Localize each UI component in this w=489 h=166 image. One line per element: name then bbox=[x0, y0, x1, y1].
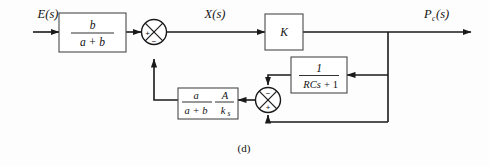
output-signal-label: P c (s) bbox=[423, 7, 449, 23]
wire-tap-to-bottomsummer-plus bbox=[268, 115, 388, 122]
bottom-summer-top-sign: − bbox=[266, 89, 271, 98]
input-signal-label: E(s) bbox=[37, 7, 59, 21]
feedback-gain-den-left: a + b bbox=[185, 105, 208, 116]
wire-feedbackgain-to-topsummer bbox=[154, 59, 178, 100]
wire-lagfilter-to-bottomsummer-minus bbox=[268, 75, 291, 85]
lag-filter-numerator: 1 bbox=[316, 62, 322, 74]
block-lag-filter[interactable]: 1 RCs + 1 bbox=[291, 57, 347, 93]
lag-filter-denominator-a: RCs bbox=[302, 79, 321, 90]
output-signal-main: P bbox=[423, 7, 432, 21]
lag-filter-denominator-b: + 1 bbox=[324, 79, 338, 90]
feedback-gain-num-right: A bbox=[221, 90, 229, 101]
feedback-gain-den-right: k bbox=[221, 105, 226, 116]
input-gain-numerator: b bbox=[90, 19, 96, 31]
block-diagram-figure: b a + b + − K 1 RCs + 1 bbox=[0, 0, 489, 166]
feedback-gain-num-left: a bbox=[193, 90, 198, 101]
block-feedback-gain[interactable]: a a + b A k s bbox=[178, 88, 238, 119]
top-summer-left-sign: + bbox=[145, 29, 150, 38]
feedback-gain-den-right-subscript: s bbox=[228, 109, 231, 118]
figure-caption: (d) bbox=[238, 142, 251, 155]
block-diagram-canvas: b a + b + − K 1 RCs + 1 bbox=[0, 0, 489, 166]
top-summing-junction[interactable]: + − bbox=[142, 20, 167, 46]
block-input-gain[interactable]: b a + b bbox=[59, 13, 126, 52]
forward-gain-label: K bbox=[279, 26, 289, 38]
bottom-summer-bottom-sign: + bbox=[266, 103, 271, 112]
top-summer-bottom-sign: − bbox=[152, 37, 157, 46]
output-signal-tail: (s) bbox=[436, 7, 449, 21]
block-forward-gain-K[interactable]: K bbox=[265, 14, 303, 50]
mid-signal-label: X(s) bbox=[204, 7, 226, 21]
input-gain-denominator: a + b bbox=[80, 36, 105, 48]
bottom-summing-junction[interactable]: − + bbox=[256, 88, 281, 113]
